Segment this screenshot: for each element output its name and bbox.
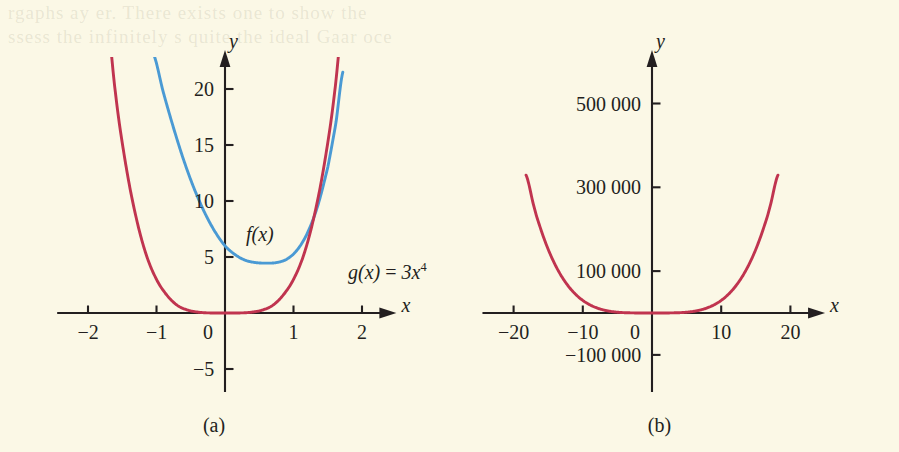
equation-lhs: g(x)	[348, 261, 380, 283]
panel-b-x-tick-label: 10	[711, 322, 731, 342]
panel-b-y-tick-label: 500 000	[576, 94, 641, 114]
panel-a-y-tick-label: 5	[204, 247, 214, 267]
panel-b-x-tick-label: 20	[780, 322, 800, 342]
panel-a-y-tick-label: 15	[194, 135, 214, 155]
panel-b: y x 0 (b) −20−101020−100 000100 000300 0…	[450, 0, 899, 452]
equation-coefficient: 3x	[401, 261, 420, 283]
panel-a-x-tick-label: 1	[289, 322, 299, 342]
panel-a-curve-label-f: f(x)	[246, 224, 274, 244]
panel-a-y-tick-label: 10	[194, 191, 214, 211]
panel-a-y-tick-label: −5	[193, 359, 214, 379]
equation-operator: =	[385, 261, 396, 283]
panel-a-y-axis-label: y	[229, 31, 238, 51]
panel-b-x-tick-label: −10	[567, 322, 598, 342]
panel-a-x-tick-label: −2	[78, 322, 99, 342]
panel-b-y-tick-label: 300 000	[576, 177, 641, 197]
panel-a-y-tick-label: 20	[194, 79, 214, 99]
x-axis-arrowhead	[808, 308, 825, 319]
panel-b-origin-label: 0	[630, 322, 640, 342]
panel-b-x-tick-label: −20	[498, 322, 529, 342]
panel-b-caption: (b)	[435, 415, 884, 435]
panel-a-origin-label: 0	[203, 322, 213, 342]
panel-b-y-tick-label: 100 000	[576, 261, 641, 281]
panel-a-x-axis-label: x	[401, 295, 410, 315]
panel-a-x-tick-label: 2	[357, 322, 367, 342]
equation-exponent: 4	[420, 260, 426, 274]
panel-a-caption: (a)	[0, 415, 439, 435]
y-axis-arrowhead	[220, 50, 231, 67]
figure-container: rgaphs ay er. There exists one to show t…	[0, 0, 899, 452]
panel-a-plot	[0, 0, 450, 452]
panel-a: y x 0 f(x) g(x) = 3x4 (a) −2−112−5510152…	[0, 0, 450, 452]
x-axis-arrowhead	[379, 308, 396, 319]
panel-b-x-axis-label: x	[830, 295, 839, 315]
y-axis-arrowhead	[647, 50, 658, 67]
panel-b-y-axis-label: y	[656, 31, 665, 51]
panel-b-plot	[450, 0, 899, 452]
panel-a-equation-g: g(x) = 3x4	[348, 261, 427, 282]
panel-b-y-tick-label: −100 000	[565, 345, 641, 365]
panel-a-x-tick-label: −1	[146, 322, 167, 342]
